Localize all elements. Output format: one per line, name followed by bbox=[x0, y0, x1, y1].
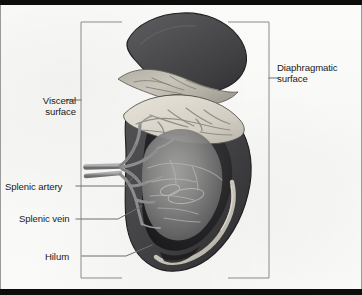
visceral-bracket bbox=[81, 22, 122, 278]
label-hilum: Hilum bbox=[45, 251, 69, 262]
frame-border-top bbox=[0, 0, 362, 5]
label-splenic-vein: Splenic vein bbox=[19, 213, 70, 224]
label-diaphragmatic-surface-line1: Diaphragmatic bbox=[277, 62, 361, 73]
label-diaphragmatic-surface-line2: surface bbox=[277, 73, 361, 84]
label-splenic-artery: Splenic artery bbox=[5, 181, 62, 192]
splenic-vein-trunk bbox=[86, 173, 120, 176]
label-visceral-surface: Visceral surface bbox=[18, 95, 76, 118]
label-diaphragmatic-surface: Diaphragmatic surface bbox=[277, 62, 361, 85]
frame-border-bottom bbox=[0, 289, 362, 295]
label-visceral-surface-line2: surface bbox=[18, 106, 76, 117]
figure-panel: Visceral surface Diaphragmatic surface S… bbox=[0, 0, 362, 295]
label-visceral-surface-line1: Visceral bbox=[18, 95, 76, 106]
upper-lobe-group bbox=[118, 13, 247, 105]
frame-border-left bbox=[0, 5, 1, 289]
